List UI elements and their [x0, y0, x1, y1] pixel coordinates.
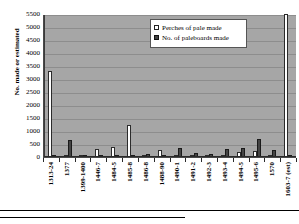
x-axis-label-slot: 1485-8 — [124, 160, 136, 212]
x-axis-label-slot: 1377 — [61, 160, 73, 212]
x-axis-label-slot: 1493-4 — [219, 160, 231, 212]
legend-swatch-boards-icon — [154, 35, 159, 40]
x-axis-tick-label: 1446-7 — [94, 162, 102, 182]
x-axis-label-slot: 1486-8 — [140, 160, 152, 212]
x-axis-label-slot: 1484-5 — [108, 160, 120, 212]
x-axis-tick-label: 1494-5 — [237, 162, 245, 182]
y-axis-tick-label: 1500 — [26, 115, 40, 122]
bar — [48, 71, 52, 157]
x-axis-tick-label: 1603-7 (est) — [284, 162, 292, 196]
bar-group — [76, 15, 92, 157]
legend-item: No. of paleboards made — [154, 34, 243, 42]
y-axis-tick-label: 2000 — [26, 102, 40, 109]
x-axis-tick-label: 1399-1400 — [79, 162, 87, 192]
x-axis-label-slot: 1603-7 (est) — [282, 160, 294, 212]
bar — [284, 14, 288, 157]
x-axis-tick-label: 1495-6 — [252, 162, 260, 182]
x-axis-tick-label: 1377 — [63, 162, 71, 176]
x-axis-label-slot: 1446-7 — [92, 160, 104, 212]
footer-rule-secondary — [0, 217, 185, 218]
bar — [127, 125, 131, 158]
y-axis-line — [44, 15, 45, 157]
x-axis-label-slot: 1313-24 — [45, 160, 57, 212]
x-axis-tick-label: 1492-3 — [205, 162, 213, 182]
x-axis-tick-labels: 1313-2413771399-14001446-71484-51485-814… — [43, 160, 296, 212]
x-axis-tick — [296, 158, 297, 162]
x-axis-label-slot: 1570 — [266, 160, 278, 212]
y-axis-tick-labels: 5500500045004000350030002500200015001000… — [18, 14, 40, 158]
bar-group — [123, 15, 139, 157]
x-axis-label-slot: 1494-5 — [235, 160, 247, 212]
y-axis-tick-label: 3500 — [26, 63, 40, 70]
bar-group — [280, 15, 296, 157]
x-axis-tick-label: 1486-8 — [142, 162, 150, 182]
bar-group — [107, 15, 123, 157]
y-axis-tick-label: 0 — [37, 154, 41, 161]
legend-label: Perches of pale made — [162, 24, 222, 32]
y-axis-tick-label: 1000 — [26, 128, 40, 135]
bar — [68, 140, 72, 157]
footer-rule-primary — [0, 210, 299, 211]
y-axis-tick-label: 5500 — [26, 11, 40, 18]
bar-group — [265, 15, 281, 157]
bar — [257, 139, 261, 157]
bar-group — [44, 15, 60, 157]
x-axis-tick-label: 1313-24 — [47, 162, 55, 185]
x-axis-tick-label: 1493-4 — [221, 162, 229, 182]
y-axis-tick-label: 500 — [30, 141, 41, 148]
x-axis-line — [44, 156, 296, 157]
bar-group — [249, 15, 265, 157]
x-axis-label-slot: 1490-1 — [171, 160, 183, 212]
x-axis-tick-label: 1488-90 — [158, 162, 166, 185]
bar-group — [91, 15, 107, 157]
x-axis-tick-label: 1490-1 — [173, 162, 181, 182]
bar-group — [60, 15, 76, 157]
x-axis-tick-label: 1484-5 — [110, 162, 118, 182]
y-axis-tick-label: 3000 — [26, 76, 40, 83]
legend-label: No. of paleboards made — [162, 34, 229, 42]
legend-item: Perches of pale made — [154, 24, 243, 32]
x-axis-label-slot: 1492-3 — [203, 160, 215, 212]
y-axis-tick-label: 2500 — [26, 89, 40, 96]
y-axis-tick-label: 4000 — [26, 50, 40, 57]
x-axis-label-slot: 1399-1400 — [77, 160, 89, 212]
legend-swatch-pale-icon — [154, 25, 159, 30]
x-axis-label-slot: 1488-90 — [156, 160, 168, 212]
y-axis-tick-label: 4500 — [26, 37, 40, 44]
chart-figure: No. made or estimated 550050004500400035… — [0, 0, 299, 224]
x-axis-label-slot: 1491-2 — [187, 160, 199, 212]
x-axis-tick-label: 1485-8 — [126, 162, 134, 182]
legend: Perches of pale made No. of paleboards m… — [150, 19, 247, 48]
x-axis-tick-label: 1570 — [268, 162, 276, 176]
x-axis-label-slot: 1495-6 — [250, 160, 262, 212]
y-axis-tick-label: 5000 — [26, 24, 40, 31]
x-axis-tick-label: 1491-2 — [189, 162, 197, 182]
